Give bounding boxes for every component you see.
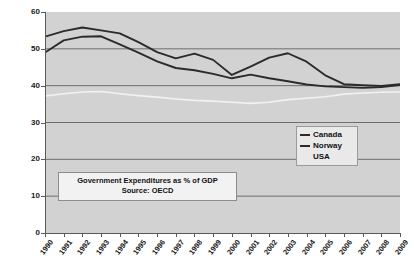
x-tick-label: 1990 [38, 238, 55, 256]
x-tick-mark [400, 233, 401, 237]
x-tick-label: 1991 [57, 238, 74, 256]
y-tick-label: 40 [8, 82, 40, 90]
x-tick-label: 2003 [281, 238, 298, 256]
legend-swatch-icon [300, 134, 310, 136]
x-tick-mark [325, 233, 326, 237]
x-tick-label: 2006 [337, 238, 354, 256]
legend-item-canada: Canada [300, 129, 354, 140]
y-tick-mark [41, 86, 46, 87]
legend-label: Canada [313, 130, 342, 139]
x-tick-mark [381, 233, 382, 237]
x-tick-mark [232, 233, 233, 237]
legend-label: Norway [313, 141, 342, 150]
x-tick-mark [101, 233, 102, 237]
x-tick-mark [363, 233, 364, 237]
x-tick-label: 2002 [262, 238, 279, 256]
y-tick-mark [41, 12, 46, 13]
annotation-line-1: Government Expenditures as % of GDP [61, 176, 234, 186]
x-tick-mark [64, 233, 65, 237]
annotation-textbox: Government Expenditures as % of GDP Sour… [58, 172, 237, 201]
y-tick-label: 0 [8, 229, 40, 237]
legend-swatch-icon [300, 156, 310, 158]
legend-item-norway: Norway [300, 140, 354, 151]
x-tick-mark [213, 233, 214, 237]
x-tick-mark [82, 233, 83, 237]
legend-label: USA [313, 152, 330, 161]
x-tick-mark [120, 233, 121, 237]
x-tick-label: 2004 [300, 238, 317, 256]
x-tick-label: 1997 [169, 238, 186, 256]
x-tick-label: 1992 [75, 238, 92, 256]
y-tick-mark [41, 123, 46, 124]
x-tick-label: 1993 [94, 238, 111, 256]
x-tick-mark [157, 233, 158, 237]
chart-legend: CanadaNorwayUSA [296, 126, 358, 166]
annotation-line-2: Source: OECD [61, 186, 234, 196]
x-tick-mark [45, 233, 46, 237]
x-tick-label: 2001 [243, 238, 260, 256]
y-tick-label: 60 [8, 8, 40, 16]
legend-item-usa: USA [300, 151, 354, 162]
chart-container: 6050403020100 19901991199219931994199519… [0, 0, 420, 280]
series-lines [45, 27, 400, 103]
x-tick-mark [307, 233, 308, 237]
y-tick-label: 30 [8, 119, 40, 127]
x-tick-mark [344, 233, 345, 237]
x-tick-label: 1996 [150, 238, 167, 256]
x-tick-mark [194, 233, 195, 237]
x-tick-mark [176, 233, 177, 237]
x-tick-label: 2005 [318, 238, 335, 256]
x-tick-mark [288, 233, 289, 237]
x-tick-label: 1995 [131, 238, 148, 256]
x-tick-mark [269, 233, 270, 237]
x-tick-label: 1994 [113, 238, 130, 256]
y-tick-mark [41, 49, 46, 50]
series-line-canada [45, 36, 400, 88]
x-tick-mark [251, 233, 252, 237]
x-tick-mark [138, 233, 139, 237]
x-tick-label: 1999 [206, 238, 223, 256]
y-tick-mark [41, 159, 46, 160]
x-tick-label: 2007 [356, 238, 373, 256]
x-axis [45, 233, 401, 234]
x-tick-label: 2008 [374, 238, 391, 256]
y-tick-label: 20 [8, 155, 40, 163]
y-tick-label: 10 [8, 192, 40, 200]
y-axis-labels: 6050403020100 [0, 0, 40, 280]
x-tick-label: 2009 [393, 238, 410, 256]
series-line-usa [45, 92, 400, 104]
y-tick-mark [41, 196, 46, 197]
legend-swatch-icon [300, 145, 310, 147]
y-tick-label: 50 [8, 45, 40, 53]
x-tick-label: 2000 [225, 238, 242, 256]
x-tick-label: 1998 [187, 238, 204, 256]
